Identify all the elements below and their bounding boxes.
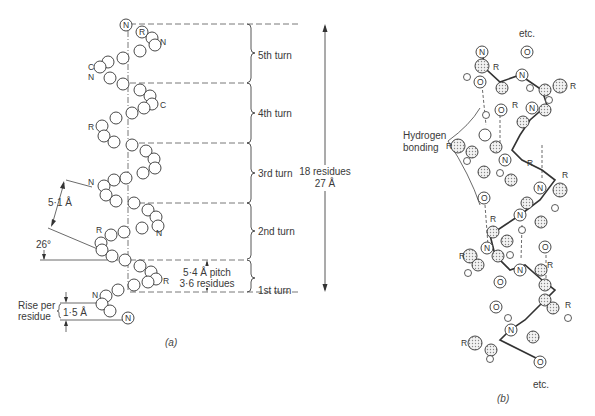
- rise-label: Rise per: [18, 300, 56, 311]
- distance-label: 5·1 Å: [48, 196, 72, 208]
- svg-text:N: N: [537, 183, 543, 193]
- panel-a: 5th turn 4th turn 3rd turn 2nd turn 1st …: [18, 19, 354, 348]
- svg-text:N: N: [529, 103, 535, 113]
- svg-text:R: R: [527, 158, 533, 168]
- svg-text:R: R: [547, 260, 553, 270]
- turn-label: 2nd turn: [258, 226, 295, 237]
- svg-text:R: R: [163, 276, 169, 286]
- caption-a: (a): [165, 337, 177, 348]
- turn-label: 4th turn: [258, 108, 292, 119]
- total-span-length: 27 Å: [315, 177, 336, 189]
- svg-text:R: R: [139, 27, 145, 37]
- svg-text:N: N: [156, 228, 162, 238]
- svg-text:N: N: [123, 20, 129, 30]
- svg-text:R: R: [459, 251, 465, 261]
- svg-text:R: R: [570, 81, 576, 91]
- svg-text:N: N: [479, 47, 485, 57]
- rise-value: 1·5 Å: [63, 306, 87, 318]
- svg-text:C: C: [160, 100, 166, 110]
- svg-text:C: C: [88, 62, 94, 72]
- svg-text:R: R: [446, 141, 452, 151]
- svg-text:O: O: [481, 193, 488, 203]
- hydrogen-bonding-label: Hydrogen: [403, 130, 446, 141]
- pitch-residues: 3·6 residues: [179, 278, 234, 289]
- turn-label: 5th turn: [258, 50, 292, 61]
- svg-text:N: N: [484, 243, 490, 253]
- svg-text:N: N: [92, 290, 98, 300]
- panel-b: etc. etc. Hydrogen bonding: [403, 28, 576, 404]
- rise-label: residue: [18, 311, 51, 322]
- svg-text:N: N: [125, 313, 131, 323]
- turn-braces: [247, 24, 255, 292]
- svg-text:N: N: [88, 177, 94, 187]
- svg-text:N: N: [517, 265, 523, 275]
- svg-text:N: N: [519, 70, 525, 80]
- svg-text:R: R: [562, 170, 568, 180]
- svg-text:O: O: [542, 242, 549, 252]
- svg-text:O: O: [497, 277, 504, 287]
- svg-text:R: R: [461, 338, 467, 348]
- pitch-label: 5·4 Å pitch: [183, 266, 231, 278]
- total-span-residues: 18 residues: [299, 166, 351, 177]
- caption-b: (b): [497, 393, 509, 404]
- angle-label: 26°: [36, 239, 51, 250]
- turn-label: 1st turn: [258, 285, 291, 296]
- svg-text:O: O: [537, 357, 544, 367]
- backbone-bonds: [482, 55, 555, 360]
- svg-text:N: N: [88, 72, 94, 82]
- svg-text:R: R: [88, 122, 94, 132]
- svg-text:R: R: [96, 225, 102, 235]
- helix-backbone: [94, 19, 164, 324]
- svg-text:N: N: [502, 155, 508, 165]
- svg-text:N: N: [508, 325, 514, 335]
- svg-text:N: N: [160, 37, 166, 47]
- turn-label: 3rd turn: [258, 168, 292, 179]
- svg-text:O: O: [493, 302, 500, 312]
- alpha-helix-figure: 5th turn 4th turn 3rd turn 2nd turn 1st …: [0, 0, 595, 416]
- svg-text:O: O: [524, 47, 531, 57]
- hydrogen-bonding-label: bonding: [403, 142, 439, 153]
- etc-bottom: etc.: [533, 379, 549, 390]
- svg-text:R: R: [490, 214, 496, 224]
- svg-text:R: R: [565, 300, 571, 310]
- etc-top: etc.: [519, 28, 535, 39]
- svg-text:N: N: [517, 210, 523, 220]
- svg-text:R: R: [493, 62, 499, 72]
- svg-text:O: O: [498, 105, 505, 115]
- svg-text:R: R: [512, 100, 518, 110]
- svg-text:O: O: [477, 77, 484, 87]
